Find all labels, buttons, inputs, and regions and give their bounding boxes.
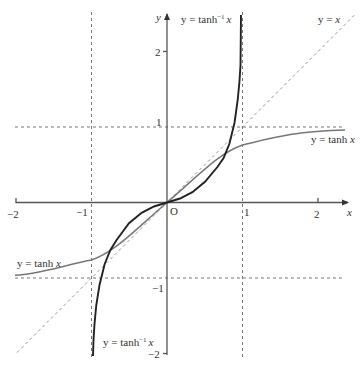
asymptotes bbox=[15, 12, 345, 360]
origin-label: O bbox=[170, 205, 178, 217]
label-artanh-bottom: y = tanh−1x bbox=[103, 336, 154, 348]
y-axis-label: y bbox=[155, 11, 161, 23]
x-tick-label-minus-2: −2 bbox=[7, 208, 19, 220]
label-y-equals-x: y = x bbox=[318, 13, 340, 25]
line-y-equals-x bbox=[17, 14, 356, 353]
label-tanh-left: y = tanh x bbox=[17, 257, 61, 269]
label-artanh-bottom-var: x bbox=[148, 336, 154, 348]
label-yx-var: x bbox=[334, 13, 340, 25]
label-artanh-bottom-prefix: y = tanh bbox=[103, 336, 140, 348]
y-tick-label-2: 2 bbox=[155, 46, 161, 58]
curve-labels: y = tanh−1x y = x y = tanh x y = tanh x … bbox=[17, 13, 355, 348]
label-yx-prefix: y = bbox=[318, 13, 335, 25]
label-artanh-bottom-sup: −1 bbox=[139, 336, 147, 344]
tick-labels: −2 −1 1 2 x O y 2 1 −1 −2 bbox=[7, 11, 352, 360]
label-tanh-left-prefix: y = tanh bbox=[17, 257, 56, 269]
label-tanh-right-var: x bbox=[349, 133, 355, 145]
label-tanh-left-var: x bbox=[55, 257, 61, 269]
label-artanh-top-sup: −1 bbox=[217, 13, 225, 21]
y-tick-label-minus-1: −1 bbox=[152, 282, 164, 294]
label-artanh-top: y = tanh−1x bbox=[181, 13, 232, 25]
y-tick-label-minus-2: −2 bbox=[148, 348, 160, 360]
y-tick-label-1: 1 bbox=[156, 116, 162, 128]
label-tanh-right: y = tanh x bbox=[311, 133, 355, 145]
x-tick-label-2: 2 bbox=[314, 208, 320, 220]
x-axis-label: x bbox=[346, 206, 352, 218]
x-tick-label-1: 1 bbox=[244, 206, 250, 218]
chart: −2 −1 1 2 x O y 2 1 −1 −2 y = tanh−1x y … bbox=[0, 0, 362, 370]
label-tanh-right-prefix: y = tanh bbox=[311, 133, 350, 145]
label-artanh-top-prefix: y = tanh bbox=[181, 13, 218, 25]
x-tick-label-minus-1: −1 bbox=[76, 206, 88, 218]
label-artanh-top-var: x bbox=[226, 13, 232, 25]
